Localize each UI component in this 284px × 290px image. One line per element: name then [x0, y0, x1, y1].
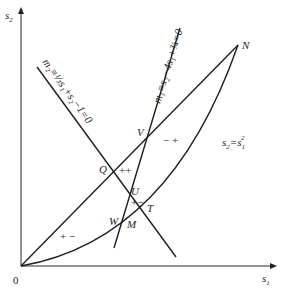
x-axis-label: s1	[262, 272, 270, 287]
point-N-label: N	[241, 39, 250, 51]
line-m1-label: m₁≡s₂−4s₁+¾=0	[150, 27, 184, 105]
line-m2-label: m₂≡⅓s₁+s₂−1=0	[40, 56, 95, 126]
region-sign-center: ++	[119, 164, 131, 176]
phase-diagram: s2 s1 0 m₂≡⅓s₁+s₂−1=0 m₁≡s₂−4s₁+¾=0 s2=s…	[0, 0, 284, 290]
y-axis-label: s2	[5, 9, 13, 24]
origin-label: 0	[13, 274, 19, 286]
region-sign-lower-left: + −	[60, 230, 75, 242]
region-sign-small-triangle: +−	[131, 196, 143, 208]
point-W-label: W	[109, 215, 119, 227]
point-M-label: M	[126, 218, 137, 230]
point-V-label: V	[137, 126, 145, 138]
region-sign-upper-right: − +	[163, 134, 178, 146]
diagram-canvas: s2 s1 0 m₂≡⅓s₁+s₂−1=0 m₁≡s₂−4s₁+¾=0 s2=s…	[0, 0, 284, 290]
curve-label: s2=s12	[222, 134, 245, 151]
point-Q-label: Q	[99, 163, 107, 175]
point-T-label: T	[147, 202, 154, 214]
